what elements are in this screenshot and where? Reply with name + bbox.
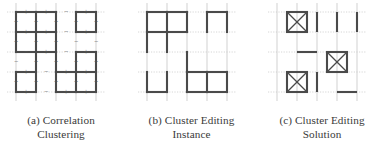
edge-sign-plus: +: [74, 77, 78, 86]
edge-sign-plus: +: [14, 17, 18, 26]
edge-sign-minus: −: [44, 87, 48, 96]
panel-a-svg: ++−++++++++−++++−−−+−+−+++++−++++++++−++: [6, 2, 116, 112]
edge-sign-plus: +: [54, 37, 58, 46]
panel-c: (c) Cluster Editing Solution: [261, 0, 383, 162]
edge-sign-plus: +: [54, 17, 58, 26]
edge-sign-plus: +: [74, 57, 78, 66]
panel-a-canvas: ++−++++++++−++++−−−+−+−+++++−++++++++−++: [6, 2, 116, 112]
edge-sign-plus: +: [84, 87, 88, 96]
edge-sign-plus: +: [34, 57, 38, 66]
edge-sign-minus: −: [64, 27, 68, 36]
panel-b-caption-line1: (b) Cluster Editing: [133, 114, 251, 128]
edge-sign-plus: +: [64, 67, 68, 76]
edge-sign-plus: +: [54, 77, 58, 86]
edge-sign-minus: −: [74, 37, 78, 46]
panel-b-caption-line2: Instance: [133, 128, 251, 142]
panel-c-svg: [267, 2, 377, 112]
edge-sign-plus: +: [34, 77, 38, 86]
edge-sign-plus: +: [84, 67, 88, 76]
edge-sign-minus: −: [44, 67, 48, 76]
edge-sign-minus: −: [14, 57, 18, 66]
panel-b-svg: [137, 2, 247, 112]
edge-sign-minus: −: [94, 37, 98, 46]
panel-b-caption: (b) Cluster Editing Instance: [133, 114, 251, 141]
panel-c-canvas: [267, 2, 377, 112]
edge-sign-plus: +: [44, 47, 48, 56]
edge-sign-plus: +: [84, 27, 88, 36]
edge-sign-plus: +: [64, 87, 68, 96]
edge-sign-plus: +: [94, 57, 98, 66]
panel-c-caption: (c) Cluster Editing Solution: [263, 114, 381, 141]
edge-sign-plus: +: [94, 17, 98, 26]
edge-sign-plus: +: [24, 7, 28, 16]
edge-sign-plus: +: [34, 37, 38, 46]
edge-sign-plus: +: [34, 17, 38, 26]
edge-sign-plus: +: [84, 47, 88, 56]
edge-sign-plus: +: [14, 77, 18, 86]
panel-a-caption-line1: (a) Correlation: [2, 114, 120, 128]
panel-a: ++−++++++++−++++−−−+−+−+++++−++++++++−++…: [0, 0, 122, 162]
panel-b-canvas: [137, 2, 247, 112]
edge-sign-plus: +: [44, 7, 48, 16]
edge-sign-plus: +: [74, 17, 78, 26]
edge-sign-minus: −: [24, 47, 28, 56]
panel-a-caption: (a) Correlation Clustering: [2, 114, 120, 141]
panel-a-caption-line2: Clustering: [2, 128, 120, 142]
edge-sign-minus: −: [64, 7, 68, 16]
panel-b: (b) Cluster Editing Instance: [131, 0, 253, 162]
edge-sign-plus: +: [24, 87, 28, 96]
figure-container: ++−++++++++−++++−−−+−+−+++++−++++++++−++…: [0, 0, 383, 162]
panel-c-caption-line2: Solution: [263, 128, 381, 142]
edge-sign-plus: +: [44, 27, 48, 36]
edge-sign-plus: +: [94, 77, 98, 86]
edge-sign-minus: −: [64, 47, 68, 56]
edge-sign-plus: +: [84, 7, 88, 16]
edge-sign-plus: +: [54, 57, 58, 66]
edge-sign-plus: +: [24, 27, 28, 36]
panel-c-caption-line1: (c) Cluster Editing: [263, 114, 381, 128]
edge-sign-plus: +: [14, 37, 18, 46]
edge-sign-plus: +: [24, 67, 28, 76]
